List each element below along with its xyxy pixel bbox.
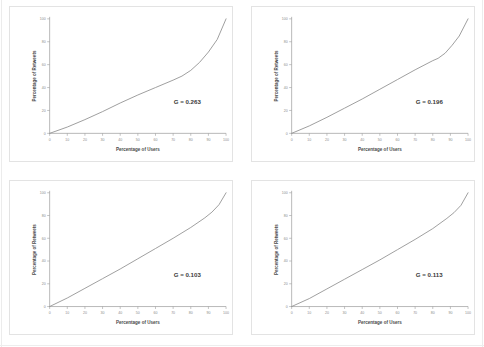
- y-tick-label: 20: [42, 282, 46, 286]
- x-axis-title: Percentage of Users: [358, 147, 402, 152]
- chart-1-plot: 0204060801000102030405060708090100Percen…: [10, 7, 232, 161]
- chart-panel-3: 0204060801000102030405060708090100Percen…: [0, 174, 242, 347]
- x-tick-label: 70: [171, 138, 175, 142]
- page-edge-bottom: [0, 345, 484, 346]
- x-tick-label: 90: [448, 138, 452, 142]
- y-axis-title: Percentage of Retweets: [274, 224, 279, 275]
- x-tick-label: 10: [65, 311, 69, 315]
- x-tick-label: 50: [378, 311, 382, 315]
- y-tick-label: 20: [284, 109, 288, 113]
- y-axis-title: Percentage of Retweets: [32, 50, 37, 101]
- x-tick-label: 50: [136, 138, 140, 142]
- y-tick-label: 60: [284, 63, 288, 67]
- x-tick-label: 20: [325, 138, 329, 142]
- x-tick-label: 20: [83, 138, 87, 142]
- y-tick-label: 80: [42, 214, 46, 218]
- x-tick-label: 70: [413, 138, 417, 142]
- x-tick-label: 0: [49, 311, 51, 315]
- y-tick-label: 60: [42, 63, 46, 67]
- lorenz-curve-path: [292, 19, 468, 134]
- x-tick-label: 50: [136, 311, 140, 315]
- x-tick-label: 100: [223, 311, 229, 315]
- y-tick-label: 80: [284, 40, 288, 44]
- y-tick-label: 80: [284, 214, 288, 218]
- y-axis-title: Percentage of Retweets: [274, 50, 279, 101]
- y-tick-label: 100: [282, 191, 288, 195]
- x-tick-label: 10: [65, 138, 69, 142]
- x-tick-label: 90: [206, 138, 210, 142]
- y-tick-label: 80: [42, 40, 46, 44]
- lorenz-curve-figure-grid: 0204060801000102030405060708090100Percen…: [0, 0, 484, 347]
- x-tick-label: 70: [413, 311, 417, 315]
- gini-coefficient-annotation: G = 0.196: [416, 98, 444, 105]
- y-tick-label: 40: [284, 86, 288, 90]
- x-tick-label: 40: [360, 311, 364, 315]
- chart-panel-4-frame: 0204060801000102030405060708090100Percen…: [251, 180, 475, 335]
- x-tick-label: 90: [448, 311, 452, 315]
- lorenz-curve-path: [50, 19, 226, 134]
- x-axis-title: Percentage of Users: [116, 147, 160, 152]
- y-tick-label: 40: [42, 259, 46, 263]
- x-tick-label: 80: [189, 138, 193, 142]
- x-tick-label: 70: [171, 311, 175, 315]
- x-tick-label: 0: [49, 138, 51, 142]
- y-tick-label: 0: [286, 305, 288, 309]
- chart-panel-3-frame: 0204060801000102030405060708090100Percen…: [9, 180, 233, 335]
- x-tick-label: 80: [431, 311, 435, 315]
- x-tick-label: 40: [118, 311, 122, 315]
- chart-panel-4: 0204060801000102030405060708090100Percen…: [242, 174, 484, 347]
- y-tick-label: 100: [40, 191, 46, 195]
- y-tick-label: 0: [286, 132, 288, 136]
- y-tick-label: 60: [284, 237, 288, 241]
- page-edge-right: [482, 0, 483, 347]
- chart-2-plot: 0204060801000102030405060708090100Percen…: [252, 7, 474, 161]
- y-tick-label: 20: [284, 282, 288, 286]
- gini-coefficient-annotation: G = 0.263: [174, 98, 202, 105]
- chart-panel-1: 0204060801000102030405060708090100Percen…: [0, 0, 242, 174]
- x-tick-label: 40: [360, 138, 364, 142]
- x-tick-label: 20: [325, 311, 329, 315]
- x-tick-label: 80: [189, 311, 193, 315]
- x-tick-label: 80: [431, 138, 435, 142]
- y-tick-label: 0: [44, 132, 46, 136]
- y-tick-label: 100: [282, 17, 288, 21]
- x-tick-label: 0: [291, 311, 293, 315]
- y-tick-label: 0: [44, 305, 46, 309]
- y-tick-label: 40: [42, 86, 46, 90]
- chart-panel-2: 0204060801000102030405060708090100Percen…: [242, 0, 484, 174]
- x-tick-label: 30: [101, 138, 105, 142]
- x-tick-label: 20: [83, 311, 87, 315]
- chart-panel-1-frame: 0204060801000102030405060708090100Percen…: [9, 6, 233, 162]
- x-tick-label: 100: [465, 311, 471, 315]
- y-tick-label: 60: [42, 237, 46, 241]
- chart-4-plot: 0204060801000102030405060708090100Percen…: [252, 181, 474, 334]
- gini-coefficient-annotation: G = 0.103: [174, 271, 202, 278]
- x-axis-title: Percentage of Users: [358, 320, 402, 325]
- x-tick-label: 90: [206, 311, 210, 315]
- x-tick-label: 10: [307, 311, 311, 315]
- y-tick-label: 20: [42, 109, 46, 113]
- x-tick-label: 60: [154, 311, 158, 315]
- page-edge-left: [1, 0, 2, 347]
- y-axis-title: Percentage of Retweets: [32, 224, 37, 275]
- x-tick-label: 60: [154, 138, 158, 142]
- chart-panel-2-frame: 0204060801000102030405060708090100Percen…: [251, 6, 475, 162]
- y-tick-label: 40: [284, 259, 288, 263]
- x-tick-label: 30: [101, 311, 105, 315]
- x-tick-label: 40: [118, 138, 122, 142]
- lorenz-curve-path: [50, 193, 226, 307]
- x-tick-label: 10: [307, 138, 311, 142]
- x-tick-label: 30: [343, 138, 347, 142]
- x-axis-title: Percentage of Users: [116, 320, 160, 325]
- x-tick-label: 100: [223, 138, 229, 142]
- gini-coefficient-annotation: G = 0.113: [416, 271, 443, 278]
- y-tick-label: 100: [40, 17, 46, 21]
- lorenz-curve-path: [292, 193, 468, 307]
- x-tick-label: 0: [291, 138, 293, 142]
- chart-3-plot: 0204060801000102030405060708090100Percen…: [10, 181, 232, 334]
- x-tick-label: 60: [396, 311, 400, 315]
- x-tick-label: 100: [465, 138, 471, 142]
- x-tick-label: 60: [396, 138, 400, 142]
- x-tick-label: 50: [378, 138, 382, 142]
- x-tick-label: 30: [343, 311, 347, 315]
